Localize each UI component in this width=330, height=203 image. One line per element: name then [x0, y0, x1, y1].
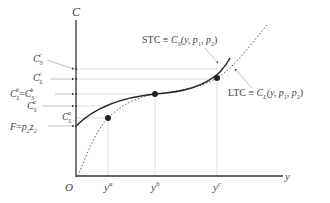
point-b	[152, 91, 158, 97]
c-axis-labels: CSc CLc CLb=CSb CSa CLa F=p2z2	[9, 52, 73, 134]
point-a	[105, 115, 111, 121]
label-cl-b-eq-cs-b: CLb=CSb	[10, 87, 34, 101]
svg-text:yb: yb	[150, 180, 160, 193]
cost-curve-diagram: C y O ya yb yc CSc CLc CLb=CSb CSa CLa F…	[0, 0, 330, 203]
x-axis-label: y	[284, 170, 290, 182]
label-cl-a: CLa	[62, 110, 73, 124]
svg-text:yc: yc	[212, 180, 222, 193]
stc-label: STC ≡ CS(y, p1, p2)	[142, 34, 217, 47]
label-cs-c: CSc	[33, 52, 43, 66]
x-tick-labels: ya yb yc	[103, 180, 222, 193]
label-fixed-cost: F=p2z2	[9, 121, 37, 134]
leader-lines	[42, 48, 252, 126]
ltc-curve	[78, 25, 267, 176]
point-c	[214, 75, 220, 81]
ltc-label: LTC ≡ CL(y, p1, p2)	[228, 87, 303, 100]
svg-text:ya: ya	[103, 180, 113, 193]
label-cs-a: CSa	[27, 99, 37, 113]
c-axis-label: C	[72, 5, 81, 19]
origin-label: O	[65, 181, 73, 193]
label-cl-c: CLc	[33, 71, 44, 85]
